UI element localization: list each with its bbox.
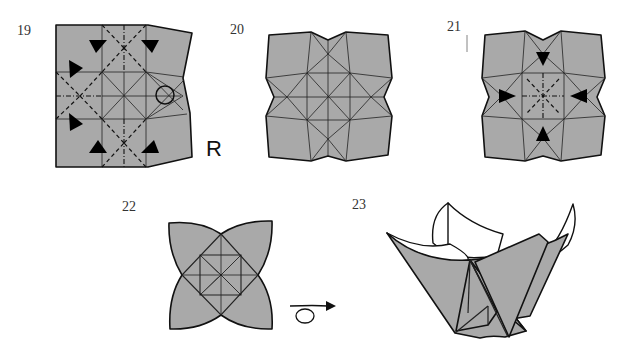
turn-over-arrow-icon [290,301,336,323]
step-20-diagram [220,0,440,180]
step-23-diagram [340,185,633,350]
step-21-diagram [430,0,633,180]
step-19-diagram [0,0,240,180]
step-22-diagram [130,185,350,350]
